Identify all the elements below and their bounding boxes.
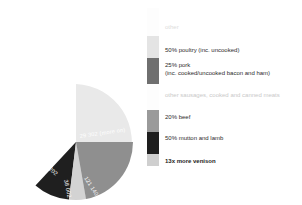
legend-swatch-beef[interactable] xyxy=(147,110,159,132)
legend-item-label: other xyxy=(165,24,179,30)
legend-swatch-other[interactable] xyxy=(147,8,159,36)
legend-item-sublabel: (inc. cooked/uncooked bacon and ham) xyxy=(165,70,270,78)
legend-item[interactable]: 25% pork(inc. cooked/uncooked bacon and … xyxy=(165,62,270,77)
legend-item[interactable]: other xyxy=(165,24,179,32)
legend-item[interactable]: 50% mutton and lamb xyxy=(165,135,223,143)
legend-item[interactable]: 20% beef xyxy=(165,114,190,122)
pie-slices xyxy=(36,84,134,200)
legend-item-label: 25% pork xyxy=(165,62,190,68)
legend-item-label: 50% poultry (inc. uncooked) xyxy=(165,47,239,53)
pie-label-4: 20 000 xyxy=(25,148,44,162)
legend-swatch-poultry[interactable] xyxy=(147,36,159,58)
legend-color-bar xyxy=(147,8,159,166)
legend-swatch-pork[interactable] xyxy=(147,58,159,84)
legend-item[interactable]: other sausages, cooked and canned meats xyxy=(165,92,280,100)
pie-chart-svg: 29 302 (more on) 121 140 38 002 30 202 2… xyxy=(14,82,138,200)
pie-slice-beef[interactable] xyxy=(76,142,133,199)
legend-item[interactable]: 50% poultry (inc. uncooked) xyxy=(165,47,239,55)
legend-swatch-venison[interactable] xyxy=(147,154,159,166)
legend-item[interactable]: 13x more venison xyxy=(165,158,216,166)
legend-item-label: other sausages, cooked and canned meats xyxy=(165,92,280,98)
legend-item-label: 13x more venison xyxy=(165,158,216,164)
legend-swatch-other-sausages[interactable] xyxy=(147,84,159,110)
legend-swatch-mutton-and-lamb[interactable] xyxy=(147,132,159,154)
legend-item-label: 50% mutton and lamb xyxy=(165,135,223,141)
pie-chart: 29 302 (more on) 121 140 38 002 30 202 2… xyxy=(14,82,138,200)
legend-item-label: 20% beef xyxy=(165,114,190,120)
legend: other50% poultry (inc. uncooked)25% pork… xyxy=(147,8,297,173)
